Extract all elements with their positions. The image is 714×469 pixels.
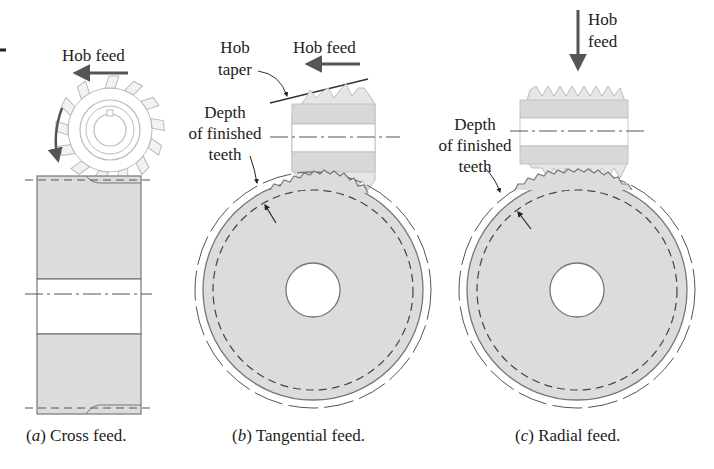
caption-c-text: Radial feed. (538, 426, 620, 445)
depth-label-c-line2: of finished (430, 136, 520, 156)
hob-feed-label-c-line2: feed (588, 32, 617, 52)
hob-feed-label-a: Hob feed (62, 46, 125, 66)
caption-b-text: Tangential feed. (256, 426, 365, 445)
hob-cutter-icon (56, 76, 165, 184)
hob-taper-label-line2: taper (210, 60, 260, 80)
depth-label-c-line3: teeth (430, 157, 520, 177)
depth-label-c-line1: Depth (430, 115, 520, 135)
caption-c-letter: c (521, 426, 529, 445)
caption-a-text: Cross feed. (50, 426, 126, 445)
depth-label-b-line1: Depth (180, 103, 270, 123)
hob-feed-label-c-line1: Hob (588, 10, 617, 30)
caption-a-letter: a (32, 426, 41, 445)
caption-b: (b) Tangential feed. (232, 426, 365, 446)
caption-a: (a) Cross feed. (26, 426, 127, 446)
hob-taper-label-line1: Hob (210, 38, 260, 58)
panel-a-cross-feed (25, 73, 165, 414)
panel-c-radial-feed (459, 10, 695, 408)
caption-b-letter: b (238, 426, 247, 445)
hob-feed-label-b: Hob feed (293, 38, 356, 58)
hob-c (510, 86, 646, 178)
depth-label-b-line2: of finished (180, 124, 270, 144)
caption-c: (c) Radial feed. (515, 426, 620, 446)
hobbing-diagram (0, 0, 714, 469)
depth-label-b-line3: teeth (180, 145, 270, 165)
